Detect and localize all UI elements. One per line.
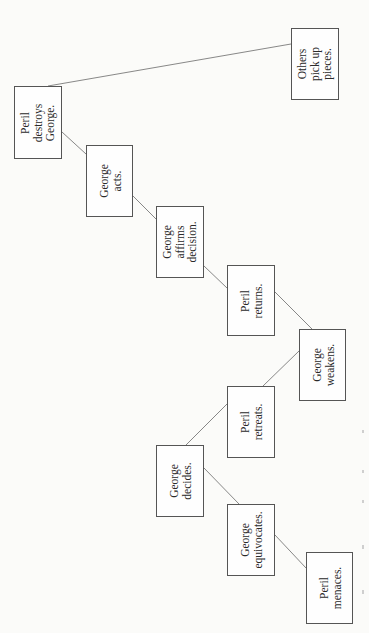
node-label: Perilretreats.: [239, 404, 264, 441]
edge-george-decides-to-george-equivocates: [204, 468, 239, 504]
node-label-line: acts.: [110, 164, 123, 198]
plot-tree-diagram: Otherspick uppieces.PerildestroysGeorge.…: [0, 0, 369, 633]
node-label: Georgeacts.: [97, 164, 122, 198]
node-label-line: George: [310, 344, 323, 386]
edge-peril-retreats-to-george-decides: [186, 404, 227, 445]
node-label-line: Peril: [19, 103, 32, 141]
node-label: Georgeaffirmsdecision.: [161, 221, 199, 262]
node-label: Perilreturns.: [239, 283, 264, 318]
page-bleed-mark: [362, 500, 364, 503]
node-label-line: returns.: [251, 283, 264, 318]
page-bleed-mark: [362, 590, 364, 594]
edge-peril-returns-to-george-weakens: [275, 292, 312, 329]
node-label: Otherspick uppieces.: [296, 47, 334, 81]
edge-george-equivocates-to-peril-menaces: [275, 535, 306, 568]
node-label-line: pick up: [309, 47, 322, 81]
node-label: Georgedecides.: [168, 462, 193, 499]
page-bleed-mark: [362, 430, 364, 433]
node-peril-destroys-george: PerildestroysGeorge.: [14, 86, 62, 159]
node-label-line: equivocates.: [251, 511, 264, 568]
node-label-line: Others: [296, 47, 309, 81]
node-label-line: George: [239, 511, 252, 568]
node-peril-menaces: Perilmenaces.: [306, 552, 353, 624]
node-label-line: weakens.: [323, 344, 336, 386]
page-bleed-mark: [362, 545, 364, 549]
edge-peril-destroys-george-to-others-pick-up-pieces: [48, 44, 291, 86]
edge-george-affirms-decision-to-peril-returns: [204, 266, 227, 288]
node-george-weakens: Georgeweakens.: [299, 329, 346, 401]
node-label: Georgeequivocates.: [239, 511, 264, 568]
node-george-decides: Georgedecides.: [156, 445, 204, 517]
node-label-line: destroys: [32, 103, 45, 141]
node-label-line: George: [168, 462, 181, 499]
node-label-line: George.: [44, 103, 57, 141]
node-george-equivocates: Georgeequivocates.: [227, 504, 275, 576]
node-label: PerildestroysGeorge.: [19, 103, 57, 141]
node-label-line: menaces.: [330, 567, 343, 609]
node-label: Georgeweakens.: [310, 344, 335, 386]
node-label-line: decides.: [180, 462, 193, 499]
node-others-pick-up-pieces: Otherspick uppieces.: [291, 28, 339, 100]
edge-george-acts-to-george-affirms-decision: [133, 196, 156, 219]
node-label-line: pieces.: [321, 47, 334, 81]
node-label: Perilmenaces.: [317, 567, 342, 609]
edge-peril-destroys-george-to-george-acts: [62, 132, 86, 154]
node-label-line: Peril: [239, 283, 252, 318]
node-peril-returns: Perilreturns.: [227, 265, 275, 336]
node-peril-retreats: Perilretreats.: [227, 386, 275, 458]
node-label-line: Peril: [239, 404, 252, 441]
node-label-line: affirms: [174, 221, 187, 262]
node-george-affirms-decision: Georgeaffirmsdecision.: [156, 206, 204, 278]
node-label-line: decision.: [186, 221, 199, 262]
node-label-line: George: [97, 164, 110, 198]
node-label-line: retreats.: [251, 404, 264, 441]
edge-george-weakens-to-peril-retreats: [263, 351, 299, 386]
node-label-line: Peril: [317, 567, 330, 609]
node-george-acts: Georgeacts.: [86, 145, 133, 217]
page-bleed-mark: [362, 470, 364, 473]
node-label-line: George: [161, 221, 174, 262]
